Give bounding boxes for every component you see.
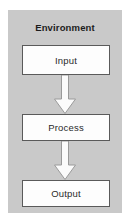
diagram-canvas: Environment Input Process Output [0,0,132,221]
arrow-process-to-output-icon [50,141,80,180]
node-input-label: Input [55,55,77,66]
environment-title: Environment [8,22,122,33]
node-process: Process [22,114,110,141]
node-output-label: Output [51,188,81,199]
node-process-label: Process [48,122,84,133]
node-input: Input [22,45,110,75]
environment-panel: Environment Input Process Output [8,10,122,213]
node-output: Output [22,180,110,207]
arrow-input-to-process-icon [50,75,80,114]
